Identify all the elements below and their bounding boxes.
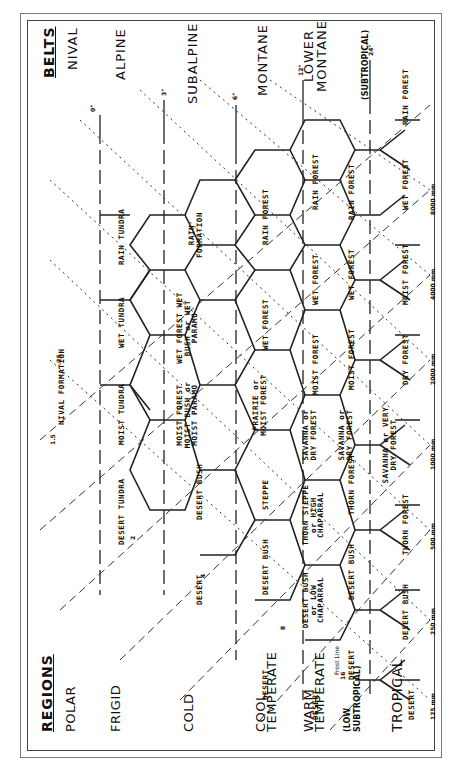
cell-tr-savanna-very-dry-forest: SAVANNA or VERY DRY FOREST [382, 405, 397, 485]
precip-8000: 8000 mm [430, 184, 436, 215]
cell-lm-wet-forest: WET FOREST [312, 254, 320, 305]
cell-tr-wet-forest: WET FOREST [402, 159, 410, 210]
temp-12: 12° [298, 65, 304, 76]
temp-4: 4 [200, 574, 206, 578]
cell-st-desert-bush: DESERT BUSH [348, 544, 356, 600]
temp-3: 3° [161, 89, 167, 96]
belts-heading: BELTS [42, 27, 56, 78]
belt-lower-montane: LOWER MONTANE [302, 16, 328, 96]
hexagon-grid [0, 0, 459, 765]
cell-wet-tundra: WET TUNDRA [118, 297, 126, 348]
cell-st-wet-forest: WET FOREST [348, 249, 356, 300]
precip-250: 250 mm [430, 608, 436, 635]
cell-montane-desert: DESERT [262, 669, 270, 700]
cell-tr-rain-forest: RAIN FOREST [402, 69, 410, 125]
cell-steppe: STEPPE [262, 479, 270, 510]
cell-tr-desert: DESERT [408, 689, 416, 720]
temp-0: 0° [90, 105, 96, 112]
cell-st-moist-forest: MOIST FOREST [348, 329, 356, 390]
temp-025: .25 [56, 354, 62, 365]
precip-4000: 4000 mm [430, 269, 436, 300]
cell-moist-forest-paramo: MOIST FOREST MOIST BUSH or MOIST PARAMO [176, 375, 199, 455]
precip-2000: 2000 mm [430, 354, 436, 385]
precip-125: 125 mm [430, 693, 436, 720]
cell-montane-desert-bush: DESERT BUSH [262, 539, 270, 595]
region-frigid: FRIGID [109, 685, 122, 732]
cell-tr-dry-forest: DRY FOREST [402, 334, 410, 385]
cell-lm-rain-forest: RAIN FOREST [312, 154, 320, 210]
belt-montane: MONTANE [256, 24, 269, 96]
cell-wet-forest-paramo: WET FOREST WET BUSH or WET PARAMO [176, 288, 199, 368]
precip-500: 500 mm [430, 523, 436, 550]
cell-subalpine-desert: DESERT [196, 574, 204, 605]
belt-nival: NIVAL [66, 27, 79, 70]
region-polar: POLAR [64, 686, 77, 732]
cell-tr-desert-bush: DESERT BUSH [402, 584, 410, 640]
cell-moist-tundra: MOIST TUNDRA [118, 384, 126, 445]
temp-2: 2 [130, 536, 136, 540]
cell-thorn-steppe-chaparral: THORN STEPPE or HIGH CHAPARRAL [302, 480, 325, 550]
temp-16: 16 [340, 672, 346, 680]
cell-rain-formation: RAIN FORMATION [188, 205, 203, 265]
regions-heading: REGIONS [40, 654, 54, 732]
precip-1000: 1000 mm [430, 439, 436, 470]
cell-tr-moist-forest: MOIST FOREST [402, 244, 410, 305]
cell-montane-rain-forest: RAIN FOREST [262, 189, 270, 245]
belt-subtropical: (SUBTROPICAL) [362, 30, 370, 100]
cell-prairie-moist-forest: PRAIRIE or MOIST FOREST [252, 365, 267, 445]
region-cold: COLD [182, 693, 195, 732]
cell-lm-moist-forest: MOIST FOREST [312, 334, 320, 395]
belt-subalpine: SUBALPINE [186, 23, 199, 104]
cell-lm-savanna-dry-forest: SAVANNA or DRY FOREST [302, 400, 317, 470]
cell-tr-thorn-forest: THORN FOREST [402, 494, 410, 555]
cell-st-desert: DESERT [348, 649, 356, 680]
cell-lm-desert-bush-chaparral: DESERT BUSH or LOW CHAPARRAL [302, 565, 325, 635]
cell-lm-desert: DESERT [312, 689, 320, 720]
cell-st-savanna-dry-forest: SAVANNA or DRY FOREST [338, 400, 353, 470]
cell-subalpine-desert-bush: DESERT BUSH [196, 464, 204, 520]
region-tropical: TROPICAL [390, 659, 404, 732]
cell-desert-tundra: DESERT TUNDRA [118, 479, 126, 546]
temp-6: 6° [232, 93, 238, 100]
cell-montane-wet-forest: WET FOREST [262, 299, 270, 350]
cell-rain-tundra: RAIN TUNDRA [118, 209, 126, 265]
temp-1-5: 1.5 [50, 434, 56, 445]
temp-8: 8 [280, 626, 286, 630]
cell-st-rain-forest: RAIN FOREST [348, 164, 356, 220]
temp-24: 24° [368, 45, 374, 56]
belt-alpine: ALPINE [114, 28, 127, 80]
